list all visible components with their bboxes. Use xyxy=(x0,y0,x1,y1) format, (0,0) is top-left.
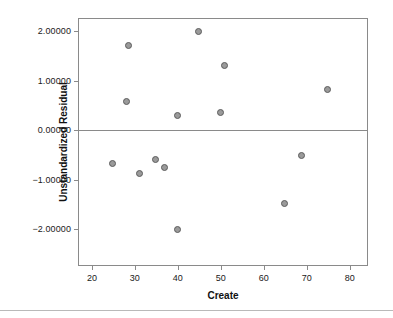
y-axis-tick-label: 1.00000 xyxy=(38,76,71,86)
data-point xyxy=(125,42,132,49)
footer-divider xyxy=(0,310,393,311)
scatter-plot-figure: Unstandardized Residual 2.000001.000000.… xyxy=(0,0,393,318)
x-axis-tick-mark xyxy=(92,265,93,270)
y-axis-tick-label: 0.00000 xyxy=(38,125,71,135)
x-axis-tick-mark xyxy=(178,265,179,270)
y-axis-title-container: Unstandardized Residual xyxy=(0,18,22,266)
x-axis-tick-mark xyxy=(135,265,136,270)
data-point xyxy=(161,164,168,171)
y-axis-tick-mark xyxy=(74,81,79,82)
data-point xyxy=(152,156,159,163)
data-point xyxy=(109,160,116,167)
x-axis-tick-mark xyxy=(350,265,351,270)
data-point xyxy=(174,112,181,119)
y-axis-tick-mark xyxy=(74,229,79,230)
data-point xyxy=(123,98,130,105)
x-axis-tick-mark xyxy=(307,265,308,270)
x-axis-tick-label: 80 xyxy=(345,273,355,283)
data-point xyxy=(324,86,331,93)
x-axis-tick-label: 60 xyxy=(259,273,269,283)
x-axis-tick-label: 40 xyxy=(173,273,183,283)
data-point xyxy=(281,200,288,207)
data-point xyxy=(195,28,202,35)
x-axis-tick-mark xyxy=(221,265,222,270)
y-axis-tick-label: −1.00000 xyxy=(32,175,71,185)
y-axis-tick-label: 2.00000 xyxy=(38,26,71,36)
data-point xyxy=(298,152,305,159)
plot-area: 2.000001.000000.00000−1.00000−2.00000 20… xyxy=(78,18,368,266)
y-axis-tick-mark xyxy=(74,130,79,131)
x-axis-tick-label: 20 xyxy=(87,273,97,283)
x-axis-tick-label: 50 xyxy=(216,273,226,283)
zero-reference-line xyxy=(79,130,367,131)
data-point xyxy=(221,62,228,69)
x-axis-tick-mark xyxy=(264,265,265,270)
data-point xyxy=(136,170,143,177)
y-axis-tick-mark xyxy=(74,180,79,181)
x-axis-tick-label: 30 xyxy=(130,273,140,283)
y-axis-tick-label: −2.00000 xyxy=(32,224,71,234)
x-axis-title: Create xyxy=(78,290,368,301)
y-axis-tick-mark xyxy=(74,31,79,32)
data-point xyxy=(174,226,181,233)
data-point xyxy=(217,109,224,116)
x-axis-tick-label: 70 xyxy=(302,273,312,283)
